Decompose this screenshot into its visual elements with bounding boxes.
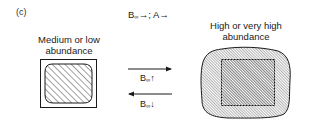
down-arrow-icon: ↓ xyxy=(150,99,155,109)
right-state-shape xyxy=(201,47,290,118)
left-state-shape xyxy=(41,60,97,108)
forward-label: B∞↑ xyxy=(140,73,155,83)
up-arrow-icon: ↑ xyxy=(150,73,155,83)
left-hatched-region xyxy=(45,64,92,103)
backward-label: B∞↓ xyxy=(140,99,155,109)
right-inner-dashed-box xyxy=(222,60,275,106)
